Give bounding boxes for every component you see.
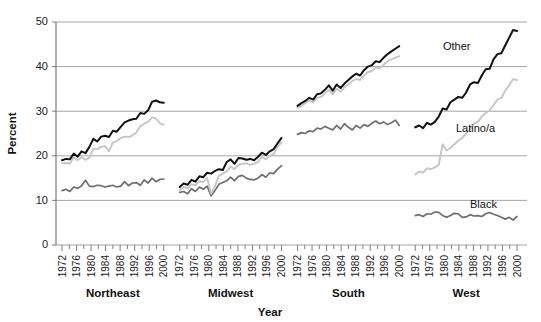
- panel-label-northeast: Northeast: [86, 287, 140, 299]
- x-tick-label: 1972: [410, 255, 421, 278]
- y-tick-label: 30: [36, 105, 48, 117]
- x-tick-label: 1984: [453, 255, 464, 278]
- series-line-black-northeast: [62, 178, 164, 191]
- x-tick-label: 1972: [174, 255, 185, 278]
- x-tick-label: 1972: [292, 255, 303, 278]
- series-line-latino-a-midwest: [180, 142, 282, 193]
- annotation-other: Other: [443, 40, 471, 52]
- y-tick-label: 20: [36, 149, 48, 161]
- x-tick-label: 1972: [57, 255, 68, 278]
- x-tick-label: 1976: [307, 255, 318, 278]
- y-tick-label: 0: [42, 238, 48, 250]
- series-annotations: OtherLatino/aBlack: [443, 40, 497, 210]
- panel-label-west: West: [452, 287, 479, 299]
- x-tick-label: 1988: [350, 255, 361, 278]
- y-tick-label: 40: [36, 60, 48, 72]
- x-tick-label: 1996: [144, 255, 155, 278]
- x-tick-label: 1980: [439, 255, 450, 278]
- panel-label-midwest: Midwest: [208, 287, 254, 299]
- x-tick-label: 1988: [232, 255, 243, 278]
- x-tick-label: 1996: [379, 255, 390, 278]
- chart-figure: 01020304050 1972197619801984198819921996…: [0, 0, 541, 322]
- x-tick-label: 1992: [247, 255, 258, 278]
- y-axis: [52, 22, 56, 245]
- x-tick-marks: [62, 245, 517, 251]
- x-tick-label: 1976: [71, 255, 82, 278]
- x-tick-labels: 1972197619801984198819921996200019721976…: [57, 255, 523, 278]
- x-tick-label: 1984: [218, 255, 229, 278]
- y-axis-title: Percent: [6, 112, 18, 154]
- x-tick-label: 1988: [115, 255, 126, 278]
- annotation-latino: Latino/a: [456, 122, 496, 134]
- x-tick-label: 1980: [203, 255, 214, 278]
- x-tick-label: 1976: [424, 255, 435, 278]
- x-tick-label: 2000: [394, 255, 405, 278]
- annotation-black: Black: [470, 198, 497, 210]
- x-tick-label: 1992: [482, 255, 493, 278]
- x-tick-label: 1996: [261, 255, 272, 278]
- series-line-other-south: [298, 46, 400, 106]
- x-tick-label: 1992: [365, 255, 376, 278]
- x-tick-label: 1984: [100, 255, 111, 278]
- x-tick-label: 1996: [497, 255, 508, 278]
- x-tick-label: 1992: [129, 255, 140, 278]
- panel-labels: NortheastMidwestSouthWest: [86, 287, 480, 299]
- series-line-black-south: [298, 120, 400, 134]
- x-tick-label: 2000: [512, 255, 523, 278]
- y-tick-labels: 01020304050: [36, 15, 48, 250]
- series-line-other-northeast: [62, 101, 164, 161]
- x-axis-title: Year: [258, 306, 283, 318]
- x-tick-label: 1980: [86, 255, 97, 278]
- series-line-other-midwest: [180, 138, 282, 187]
- chart-canvas: 01020304050 1972197619801984198819921996…: [0, 0, 541, 322]
- x-tick-label: 1984: [336, 255, 347, 278]
- y-tick-label: 50: [36, 15, 48, 27]
- panel-label-south: South: [332, 287, 365, 299]
- y-tick-label: 10: [36, 194, 48, 206]
- x-tick-label: 1988: [468, 255, 479, 278]
- series-line-black-west: [415, 212, 517, 220]
- x-tick-label: 2000: [158, 255, 169, 278]
- x-tick-label: 1976: [189, 255, 200, 278]
- data-series: [62, 30, 517, 220]
- x-tick-label: 1980: [321, 255, 332, 278]
- x-tick-label: 2000: [276, 255, 287, 278]
